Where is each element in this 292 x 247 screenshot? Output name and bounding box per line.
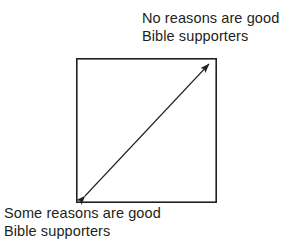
figure-canvas: No reasons are good Bible supporters Som… (0, 0, 292, 247)
label-bottom-line-1: Some reasons are good (4, 204, 161, 222)
label-bottom-left: Some reasons are good Bible supporters (4, 204, 161, 240)
label-bottom-line-2: Bible supporters (4, 222, 161, 240)
